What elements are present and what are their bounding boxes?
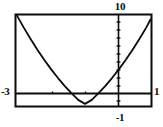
parabola-curve [17,16,151,104]
plot-canvas [0,0,163,127]
graph-screenshot: 10 -1 -3 1 [0,0,163,127]
y-max-label: 10 [108,1,132,12]
y-min-label: -1 [108,112,132,123]
x-min-label: -3 [1,86,10,97]
x-max-label: 1 [154,86,159,97]
